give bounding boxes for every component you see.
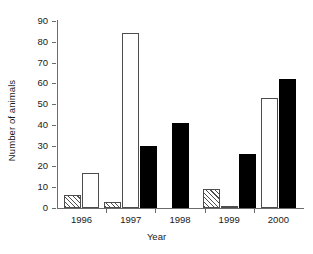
- y-tick-label: 0: [8, 203, 48, 213]
- x-axis-title: Year: [0, 231, 313, 242]
- y-tick-label: 40: [8, 120, 48, 130]
- x-group-separator: [106, 208, 107, 213]
- y-tick-label: 10: [8, 182, 48, 192]
- plot-area: [57, 20, 303, 208]
- y-tick-mark: [52, 42, 56, 43]
- y-tick-label: 20: [8, 161, 48, 171]
- y-tick-mark: [52, 21, 56, 22]
- bar-chart: Number of animals 0102030405060708090 19…: [0, 0, 313, 254]
- y-tick-label: 60: [8, 78, 48, 88]
- bar-1999-solid: [239, 154, 256, 208]
- bar-1997-open: [122, 33, 139, 208]
- bar-1999-hatched: [203, 189, 220, 208]
- y-tick-mark: [52, 166, 56, 167]
- x-tick-label: 2000: [248, 214, 308, 225]
- bar-1998-solid: [172, 123, 189, 208]
- y-tick-label: 30: [8, 141, 48, 151]
- bar-1999-open: [221, 206, 238, 208]
- y-tick-label: 80: [8, 37, 48, 47]
- y-tick-mark: [52, 187, 56, 188]
- y-tick-mark: [52, 63, 56, 64]
- bar-2000-open: [261, 98, 278, 208]
- y-tick-mark: [52, 104, 56, 105]
- bar-1997-solid: [140, 146, 157, 208]
- y-tick-mark: [52, 146, 56, 147]
- x-group-separator: [254, 208, 255, 213]
- bar-2000-solid: [279, 79, 296, 208]
- bar-1996-hatched: [64, 195, 81, 209]
- y-tick-mark: [52, 208, 56, 209]
- bar-1996-open: [82, 173, 99, 208]
- y-tick-label: 90: [8, 16, 48, 26]
- x-group-separator: [155, 208, 156, 213]
- x-axis-line: [57, 208, 304, 209]
- y-tick-label: 70: [8, 58, 48, 68]
- x-group-separator: [205, 208, 206, 213]
- y-tick-label: 50: [8, 99, 48, 109]
- y-tick-mark: [52, 83, 56, 84]
- y-tick-mark: [52, 125, 56, 126]
